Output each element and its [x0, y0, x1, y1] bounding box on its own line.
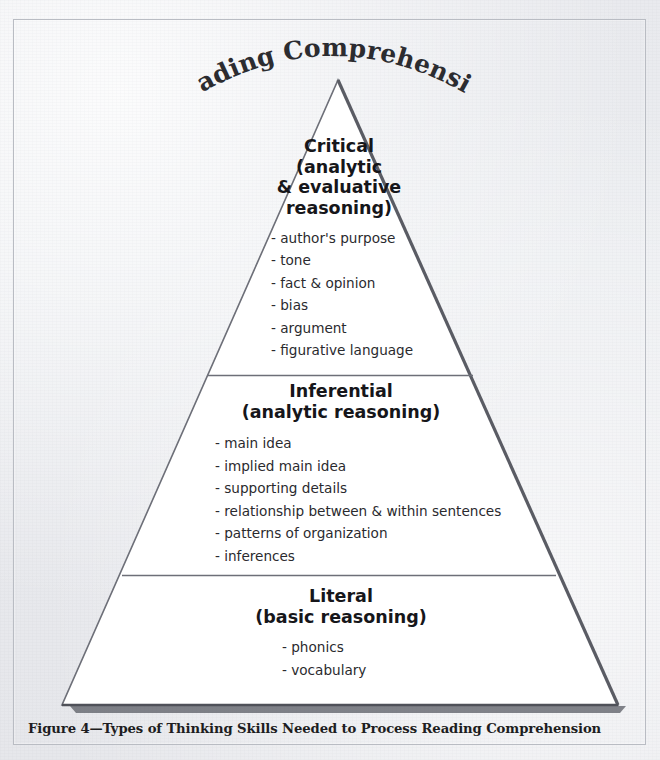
tier-literal-heading-line-1: Literal [178, 586, 504, 607]
list-item: - implied main idea [215, 455, 506, 478]
tier-inferential-heading: Inferential (analytic reasoning) [176, 381, 506, 423]
tier-critical-heading: Critical (analytic & evaluative reasonin… [232, 136, 446, 218]
list-item: - argument [271, 317, 446, 339]
tier-critical-heading-line-1: Critical [232, 136, 446, 157]
tier-literal-heading-line-2: (basic reasoning) [178, 607, 504, 628]
tier-inferential-heading-line-1: Inferential [176, 381, 506, 402]
list-item: - tone [271, 249, 446, 271]
tier-critical-heading-line-2: (analytic [232, 157, 446, 178]
tier-literal-skill-list: - phonics - vocabulary [178, 636, 504, 681]
list-item: - figurative language [271, 339, 446, 361]
pyramid-tier-critical: Critical (analytic & evaluative reasonin… [232, 136, 446, 361]
list-item: - inferences [215, 545, 506, 568]
tier-critical-heading-line-3: & evaluative [232, 177, 446, 198]
tier-critical-heading-line-4: reasoning) [232, 198, 446, 219]
list-item: - fact & opinion [271, 272, 446, 294]
tier-inferential-skill-list: - main idea - implied main idea - suppor… [176, 432, 506, 568]
pyramid-tier-literal: Literal (basic reasoning) - phonics - vo… [178, 586, 504, 681]
figure-title-text: Reading Comprehension [0, 0, 476, 99]
list-item: - author's purpose [271, 227, 446, 249]
tier-literal-heading: Literal (basic reasoning) [178, 586, 504, 628]
figure-caption: Figure 4—Types of Thinking Skills Needed… [28, 721, 628, 736]
list-item: - vocabulary [282, 659, 504, 682]
tier-critical-skill-list: - author's purpose - tone - fact & opini… [232, 227, 446, 361]
list-item: - supporting details [215, 477, 506, 500]
list-item: - patterns of organization [215, 522, 506, 545]
list-item: - relationship between & within sentence… [215, 500, 506, 523]
list-item: - main idea [215, 432, 506, 455]
pyramid-tier-inferential: Inferential (analytic reasoning) - main … [176, 381, 506, 568]
figure-title-arched: Reading Comprehension [0, 0, 660, 130]
list-item: - phonics [282, 636, 504, 659]
tier-inferential-heading-line-2: (analytic reasoning) [176, 402, 506, 423]
list-item: - bias [271, 294, 446, 316]
